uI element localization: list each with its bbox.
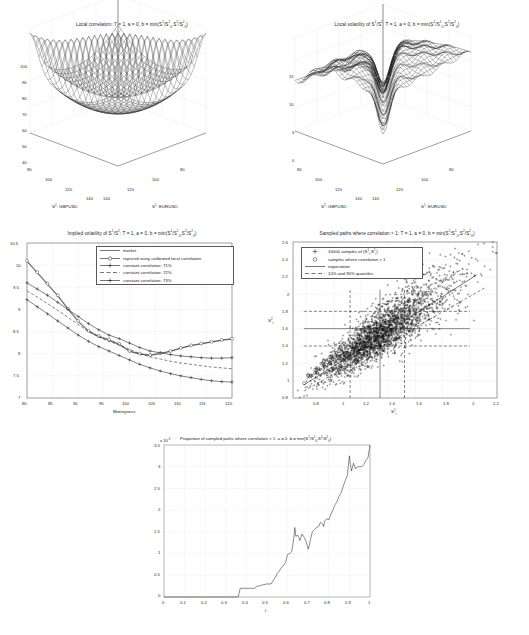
legend-label: repriced using calibrated local correlat… — [123, 256, 201, 261]
panel-proportion: Proportion of sampled paths where correl… — [132, 425, 397, 635]
ztick: 80 — [22, 96, 27, 101]
ytick: 2 — [158, 507, 160, 512]
xtick: 0.1 — [180, 600, 186, 605]
xtick: 0.5 — [262, 600, 268, 605]
legend-symbol-plus-line — [99, 277, 121, 284]
xtick: 120 — [65, 187, 72, 192]
ztick: 70 — [22, 112, 27, 117]
xtick: 80 — [27, 167, 32, 172]
ztick: 100 — [20, 64, 27, 69]
ytick: 140 — [103, 196, 110, 201]
xtick: 2.2 — [493, 401, 499, 406]
xtick: 90 — [73, 401, 78, 406]
legend-label: 10000 samples of (S1t,S2t) — [328, 249, 378, 254]
xtick: 85 — [48, 401, 53, 406]
ytick: 2 — [287, 292, 289, 297]
xtick: 100 — [315, 177, 322, 182]
legend-label: 10% and 90% quantiles — [328, 271, 373, 276]
ztick: 15 — [289, 74, 294, 79]
xtick: 140 — [86, 196, 93, 201]
xtick: 110 — [174, 401, 181, 406]
xtick: 95 — [99, 401, 104, 406]
yaxis-label-eurusd: S1: EURUSD — [421, 204, 447, 209]
xtick: 2 — [472, 401, 474, 406]
xtick: 1 — [342, 401, 344, 406]
legend-label: constant correlation: 71% — [123, 263, 172, 268]
xtick: 0.6 — [283, 600, 289, 605]
ytick: 1 — [287, 378, 289, 383]
ytick: 120 — [127, 187, 134, 192]
xtick: 80 — [297, 167, 302, 172]
xtick: 1.8 — [443, 401, 449, 406]
ytick: 10 — [16, 263, 21, 268]
xtick: 0.2 — [201, 600, 207, 605]
legend-item: repriced using calibrated local correlat… — [97, 254, 233, 261]
legend-symbol-plus — [304, 248, 326, 255]
legend-symbol-dashed-line — [304, 270, 326, 277]
xaxis-label-s1t: S1t — [391, 409, 396, 414]
legend-symbol-circle-line — [99, 255, 121, 262]
legend-symbol-solid-line — [304, 263, 326, 270]
legend-item: constant correlation: 73% — [97, 277, 233, 284]
xtick: 80 — [22, 401, 27, 406]
legend-item: expectation — [302, 263, 422, 270]
legend-label: samples where correlation > 1 — [328, 257, 385, 262]
xtick: 100 — [122, 401, 129, 406]
ytick: 0 — [158, 593, 160, 598]
ytick: 2.6 — [282, 240, 288, 245]
xaxis-label-gbpusd: S2: GBPUSD — [321, 204, 347, 209]
ytick: 10.5 — [10, 241, 18, 246]
panel-local-correlation: Local correlation: T = 1, a = 0, b = min… — [0, 0, 264, 215]
yaxis-label-s2t: S2t — [268, 318, 273, 323]
ztick: 90 — [22, 80, 27, 85]
ytick: 0.8 — [282, 395, 288, 400]
xtick: 0.9 — [345, 600, 351, 605]
ytick: 1.2 — [282, 361, 288, 366]
xtick: 100 — [45, 177, 52, 182]
legend-item: constant correlation: 71% — [97, 262, 233, 269]
xtick: 1.4 — [389, 401, 395, 406]
xtick: 120 — [335, 187, 342, 192]
legend-symbol-plus-line — [99, 262, 121, 269]
legend-label: expectation — [328, 264, 350, 269]
xtick: 1 — [368, 600, 370, 605]
legend-label: constant correlation: 72% — [123, 270, 172, 275]
ytick: 2.4 — [282, 257, 288, 262]
ztick: 50 — [22, 144, 27, 149]
ytick: 140 — [372, 196, 379, 201]
legend-symbol-dashed-line — [99, 269, 121, 276]
xtick: 140 — [355, 196, 362, 201]
ytick: 1.8 — [282, 309, 288, 314]
ytick: 0.5 — [154, 572, 160, 577]
ytick: 1.6 — [282, 326, 288, 331]
xtick: 105 — [148, 401, 155, 406]
ztick: 0 — [292, 158, 294, 163]
xtick: 120 — [225, 401, 232, 406]
legend-sampled-paths: 10000 samples of (S1t,S2t) samples where… — [301, 247, 423, 279]
surface-plot-local-correlation — [0, 0, 264, 215]
xaxis-label-moneyness: Moneyness — [113, 409, 135, 414]
ytick: 3.5 — [154, 443, 160, 448]
surface-plot-local-volatility — [265, 0, 529, 215]
ytick: 80 — [180, 167, 185, 172]
xtick: 0.8 — [324, 600, 330, 605]
xtick: 1.2 — [363, 401, 369, 406]
xtick: 0.7 — [304, 600, 310, 605]
panel-sampled-paths: Sampled paths where correlation > 1: T =… — [265, 215, 529, 425]
legend-label: constant correlation: 73% — [123, 278, 172, 283]
legend-label: market — [123, 248, 136, 253]
legend-item: samples where correlation > 1 — [302, 255, 422, 262]
ytick: 7 — [18, 395, 20, 400]
legend-item: market — [97, 247, 233, 254]
yaxis-label-eurusd: S1: EURUSD — [152, 204, 178, 209]
xtick: 0.4 — [242, 600, 248, 605]
ytick: 2.5 — [154, 486, 160, 491]
ztick: 10 — [289, 102, 294, 107]
legend-symbol-solid-line — [99, 247, 121, 254]
panel-local-volatility: Local volatility of S1/S2: T = 1, a = 0,… — [265, 0, 529, 215]
ytick: 7.5 — [13, 373, 19, 378]
ytick: 120 — [396, 187, 403, 192]
ytick: 2.2 — [282, 274, 288, 279]
ytick: 9.5 — [13, 285, 19, 290]
legend-item: constant correlation: 72% — [97, 269, 233, 276]
